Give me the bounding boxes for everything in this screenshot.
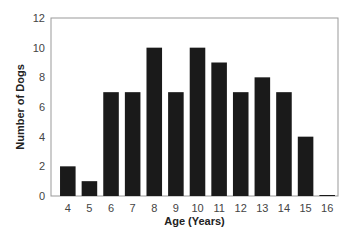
bar-age-13 (255, 77, 271, 196)
bar-age-16 (319, 195, 335, 196)
x-tick-label: 4 (65, 202, 71, 214)
bar-age-6 (103, 92, 119, 196)
y-tick-label: 12 (33, 12, 45, 24)
y-tick-label: 4 (39, 131, 45, 143)
x-tick-label: 5 (86, 202, 92, 214)
x-tick-label: 6 (108, 202, 114, 214)
y-tick-label: 6 (39, 101, 45, 113)
x-tick-label: 11 (213, 202, 224, 214)
x-axis-title: Age (Years) (164, 215, 225, 227)
x-tick-label: 16 (321, 202, 333, 214)
bar-age-11 (211, 63, 227, 197)
bar-age-4 (60, 166, 76, 196)
y-tick-label: 2 (39, 160, 45, 172)
bar-age-5 (82, 181, 98, 196)
bar-age-10 (190, 48, 206, 196)
bars (60, 48, 335, 196)
bar-age-7 (125, 92, 141, 196)
y-axis: 024681012 (33, 12, 45, 202)
x-tick-label: 15 (299, 202, 311, 214)
bar-age-14 (276, 92, 292, 196)
bar-age-8 (146, 48, 162, 196)
x-tick-label: 8 (151, 202, 157, 214)
x-tick-label: 13 (256, 202, 268, 214)
bar-age-12 (233, 92, 249, 196)
x-tick-label: 14 (278, 202, 290, 214)
y-tick-label: 8 (39, 71, 45, 83)
bar-age-9 (168, 92, 184, 196)
y-tick-label: 10 (33, 42, 45, 54)
x-tick-label: 10 (191, 202, 203, 214)
x-tick-label: 12 (235, 202, 247, 214)
y-axis-title: Number of Dogs (14, 64, 26, 150)
bar-chart: 024681012 45678910111213141516 Age (Year… (0, 0, 358, 236)
y-tick-label: 0 (39, 190, 45, 202)
bar-age-15 (298, 137, 314, 196)
x-tick-label: 9 (173, 202, 179, 214)
x-tick-label: 7 (130, 202, 136, 214)
x-axis: 45678910111213141516 (65, 202, 334, 214)
